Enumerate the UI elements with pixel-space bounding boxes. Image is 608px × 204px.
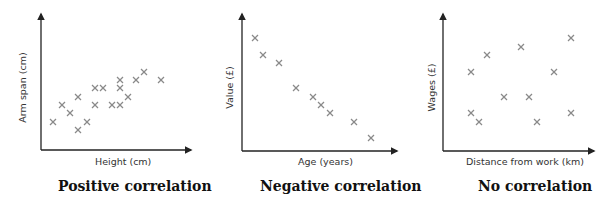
data-point-x-marker: [368, 135, 374, 141]
data-point-x-marker: [92, 102, 98, 108]
data-point-x-marker: [534, 119, 540, 125]
data-point-x-marker: [476, 119, 482, 125]
data-point-x-marker: [568, 35, 574, 41]
data-point-x-marker: [117, 85, 123, 91]
data-point-x-marker: [551, 69, 557, 75]
axes: [41, 14, 594, 151]
data-point-x-marker: [252, 35, 258, 41]
data-point-x-marker: [84, 119, 90, 125]
data-point-x-marker: [75, 127, 81, 133]
data-point-x-marker: [526, 94, 532, 100]
data-point-x-marker: [92, 85, 98, 91]
data-point-x-marker: [310, 94, 316, 100]
data-point-x-marker: [351, 119, 357, 125]
data-point-x-marker: [100, 85, 106, 91]
data-point-x-marker: [276, 60, 282, 66]
data-point-x-marker: [468, 69, 474, 75]
data-point-x-marker: [293, 85, 299, 91]
data-point-x-marker: [50, 119, 56, 125]
data-point-x-marker: [318, 102, 324, 108]
data-markers: [50, 35, 574, 141]
data-point-x-marker: [109, 102, 115, 108]
data-point-x-marker: [117, 77, 123, 83]
data-point-x-marker: [125, 94, 131, 100]
data-point-x-marker: [518, 44, 524, 50]
data-point-x-marker: [141, 69, 147, 75]
scatter-plots: [0, 0, 608, 204]
data-point-x-marker: [484, 52, 490, 58]
data-point-x-marker: [260, 52, 266, 58]
data-point-x-marker: [75, 94, 81, 100]
data-point-x-marker: [468, 110, 474, 116]
data-point-x-marker: [568, 110, 574, 116]
data-point-x-marker: [158, 77, 164, 83]
data-point-x-marker: [117, 102, 123, 108]
data-point-x-marker: [501, 94, 507, 100]
data-point-x-marker: [67, 110, 73, 116]
data-point-x-marker: [327, 110, 333, 116]
data-point-x-marker: [133, 77, 139, 83]
data-point-x-marker: [59, 102, 65, 108]
